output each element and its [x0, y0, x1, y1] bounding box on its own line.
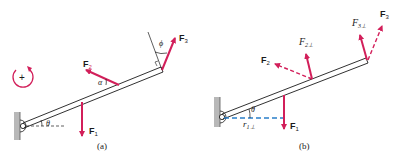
- beam: [222, 58, 368, 119]
- wall: [14, 112, 20, 140]
- label-f2: F2: [83, 60, 92, 70]
- force-arrow-f2-perp: [306, 54, 312, 79]
- wall: [214, 97, 220, 127]
- force-arrow-f3-perp: [360, 35, 367, 60]
- label-f1: F1: [89, 127, 98, 137]
- label-alpha: α: [98, 79, 102, 87]
- label-f3: F3: [179, 34, 188, 44]
- label-r1-perp: r1⊥: [243, 120, 255, 130]
- force-arrow-f3: [368, 26, 382, 60]
- label-f3: F3: [380, 10, 389, 20]
- caption-b: (b): [299, 142, 310, 151]
- rotation-sign-label: +: [19, 73, 25, 83]
- label-f2-perp: F2⊥: [299, 37, 313, 48]
- caption-a: (a): [97, 142, 107, 151]
- panel-b: [214, 26, 382, 129]
- force-arrow-f3: [162, 38, 175, 70]
- label-f3-perp: F3⊥: [352, 18, 366, 29]
- label-phi: ϕ: [159, 40, 163, 48]
- label-f1: F1: [290, 122, 299, 132]
- torque-diagram: [0, 0, 399, 158]
- label-f2: F2: [261, 56, 270, 66]
- label-theta: θ: [251, 106, 255, 114]
- beam: [23, 67, 163, 128]
- perpendicular-reference: [148, 32, 162, 70]
- panel-a: [13, 32, 175, 140]
- force-arrow-f2: [86, 70, 119, 85]
- force-arrow-f2: [275, 64, 312, 79]
- label-theta: θ: [46, 120, 50, 128]
